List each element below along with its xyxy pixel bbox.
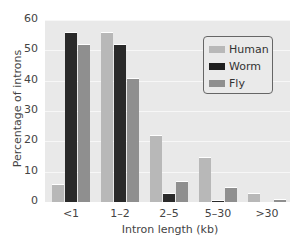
worm-swatch-icon	[209, 63, 225, 70]
x-tick-label: <1	[51, 207, 91, 220]
bar-fly	[225, 187, 237, 202]
bar-fly	[78, 44, 90, 202]
legend-item-human: Human	[209, 43, 269, 55]
y-tick-label: 60	[8, 12, 38, 25]
y-tick-label: 20	[8, 133, 38, 146]
y-tick-label: 40	[8, 73, 38, 86]
bar-human	[248, 193, 260, 202]
gridline	[45, 20, 290, 21]
bar-fly	[127, 78, 139, 202]
bar-human	[52, 184, 64, 202]
bar-fly	[176, 181, 188, 202]
bar-worm	[163, 193, 175, 202]
bar-worm	[114, 44, 126, 202]
legend-item-fly: Fly	[209, 77, 245, 89]
bar-worm	[65, 32, 77, 202]
bar-fly	[274, 199, 286, 202]
bar-worm	[212, 200, 224, 202]
x-tick-label: 5–30	[198, 207, 238, 220]
y-tick-label: 0	[8, 194, 38, 207]
y-tick-label: 10	[8, 164, 38, 177]
human-swatch-icon	[209, 46, 225, 53]
x-tick-label: 2–5	[149, 207, 189, 220]
legend: Human Worm Fly	[203, 36, 273, 94]
x-axis-label: Intron length (kb)	[110, 223, 230, 236]
legend-item-worm: Worm	[209, 60, 261, 72]
bar-human	[101, 32, 113, 202]
bar-human	[150, 135, 162, 202]
fly-swatch-icon	[209, 80, 225, 87]
x-tick-label: 1–2	[100, 207, 140, 220]
bar-human	[199, 157, 211, 203]
y-tick-label: 30	[8, 103, 38, 116]
x-tick-label: >30	[247, 207, 287, 220]
y-tick-label: 50	[8, 42, 38, 55]
